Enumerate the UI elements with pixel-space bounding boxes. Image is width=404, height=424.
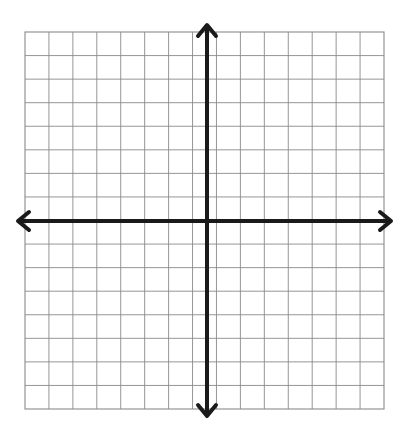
coordinate-plane <box>0 0 404 424</box>
worksheet-page: Blank Coordinate Grid <box>0 0 404 424</box>
page-background <box>0 0 404 424</box>
